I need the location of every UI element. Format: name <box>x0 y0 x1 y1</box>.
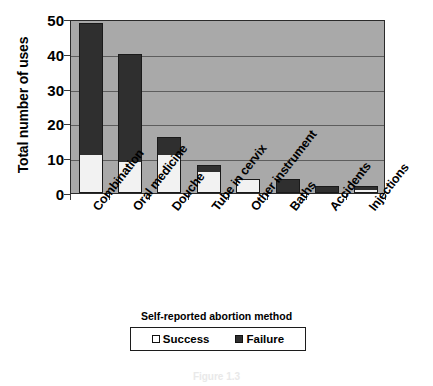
bar-segment-success <box>236 179 260 193</box>
bar-segment-success <box>197 172 221 193</box>
bar-group <box>315 186 339 193</box>
bar-segment-failure <box>276 179 300 193</box>
y-tick-label-0: 0 <box>30 186 64 203</box>
x-tick-mark <box>267 194 268 200</box>
y-tick-label-10: 10 <box>30 151 64 168</box>
bar-segment-success <box>79 155 103 193</box>
chart-figure: Total number of uses 0 10 20 30 40 50 Co… <box>0 0 433 386</box>
x-tick-mark <box>346 194 347 200</box>
figure-caption: Figure 1.3 <box>0 371 433 382</box>
x-tick-mark <box>188 194 189 200</box>
legend-swatch-failure-icon <box>235 335 243 343</box>
bar-group <box>276 179 300 193</box>
y-tick-label-40: 40 <box>30 46 64 63</box>
bar-segment-success <box>354 190 378 193</box>
bar-segment-success <box>118 162 142 193</box>
bar-segment-failure <box>157 137 181 154</box>
x-tick-mark <box>385 194 386 200</box>
y-tick-label-50: 50 <box>30 12 64 29</box>
bar-segment-success <box>157 155 181 193</box>
y-tick-label-30: 30 <box>30 81 64 98</box>
bar-group <box>79 23 103 194</box>
bar-group <box>236 179 260 193</box>
bar-segment-failure <box>118 54 142 162</box>
plot-area <box>70 20 385 194</box>
legend-title: Self-reported abortion method <box>0 310 433 322</box>
x-tick-mark <box>306 194 307 200</box>
bar-group <box>118 54 142 193</box>
bar-segment-failure <box>79 23 103 155</box>
bar-group <box>354 186 378 193</box>
x-tick-mark <box>228 194 229 200</box>
bar-group <box>157 137 181 193</box>
bar-segment-failure <box>197 165 221 172</box>
x-tick-mark <box>70 194 71 200</box>
legend-item-failure: Failure <box>235 333 284 345</box>
legend-box: Success Failure <box>130 327 306 351</box>
legend-swatch-success-icon <box>152 335 160 343</box>
y-tick-label-20: 20 <box>30 116 64 133</box>
x-tick-mark <box>109 194 110 200</box>
y-axis-title: Total number of uses <box>15 10 31 200</box>
bar-segment-failure <box>315 186 339 193</box>
legend-label-success: Success <box>163 333 210 345</box>
y-axis-ticks: 0 10 20 30 40 50 <box>30 0 64 194</box>
bar-group <box>197 165 221 193</box>
bars-layer <box>71 21 384 193</box>
legend-label-failure: Failure <box>246 333 284 345</box>
legend-item-success: Success <box>152 333 210 345</box>
x-tick-mark <box>149 194 150 200</box>
